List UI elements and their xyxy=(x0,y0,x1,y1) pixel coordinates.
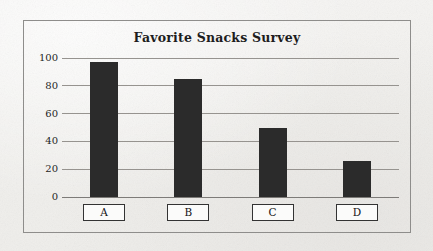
category-label-text: A xyxy=(100,207,108,218)
plot-area: 020406080100 xyxy=(62,58,399,197)
y-axis-tick-label: 40 xyxy=(45,136,58,146)
bar-b xyxy=(174,79,202,197)
chart-frame: Favorite Snacks Survey 020406080100 ABCD xyxy=(23,20,411,233)
gridline xyxy=(62,58,399,59)
category-label-text: D xyxy=(353,207,361,218)
category-label-c: C xyxy=(252,204,294,221)
chart-title: Favorite Snacks Survey xyxy=(24,30,410,45)
category-label-d: D xyxy=(336,204,378,221)
y-axis-tick-label: 80 xyxy=(45,81,58,91)
y-axis-tick-label: 100 xyxy=(39,53,58,63)
category-label-text: C xyxy=(269,207,277,218)
bar-d xyxy=(343,161,371,197)
category-label-a: A xyxy=(83,204,125,221)
bar-a xyxy=(90,62,118,197)
category-label-text: B xyxy=(185,207,193,218)
bar-c xyxy=(259,128,287,198)
y-axis-tick-label: 20 xyxy=(45,164,58,174)
y-axis-tick-label: 60 xyxy=(45,109,58,119)
category-label-b: B xyxy=(167,204,209,221)
y-axis-tick-label: 0 xyxy=(52,192,58,202)
